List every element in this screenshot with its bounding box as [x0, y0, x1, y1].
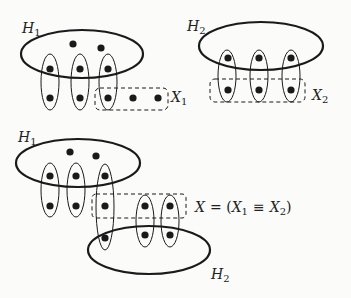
- vertex: [76, 65, 83, 72]
- vertex: [101, 202, 108, 209]
- panel-top-left: H1 X1: [21, 20, 187, 110]
- vertex: [141, 202, 148, 209]
- label-x-equivalence: X= (X1≡X2): [194, 199, 292, 217]
- vertex: [46, 94, 53, 101]
- vertex: [72, 172, 79, 179]
- label-h1: H1: [21, 20, 41, 38]
- label-x2: X2: [311, 87, 328, 105]
- vertex: [104, 65, 111, 72]
- vertex: [154, 94, 161, 101]
- vertex: [129, 94, 136, 101]
- label-h2: H2: [186, 18, 206, 36]
- vertex: [97, 44, 104, 51]
- label-h2: H2: [210, 266, 230, 284]
- vertex: [46, 65, 53, 72]
- vertex: [72, 202, 79, 209]
- vertex: [224, 54, 231, 61]
- vertex: [141, 231, 148, 238]
- diagram-svg: H1 X1 H2 X2: [0, 0, 351, 298]
- vertex: [101, 172, 108, 179]
- vertex: [76, 94, 83, 101]
- vertex: [166, 231, 173, 238]
- vertex: [255, 54, 262, 61]
- hyperedge-h2-ellipse: [199, 22, 323, 70]
- vertex: [46, 202, 53, 209]
- label-x1: X1: [170, 89, 187, 107]
- vertex: [166, 202, 173, 209]
- vertex: [92, 152, 99, 159]
- vertex: [66, 148, 73, 155]
- vertex: [69, 40, 76, 47]
- hypergraph-diagram: H1 X1 H2 X2: [0, 0, 351, 298]
- vertex: [255, 86, 262, 93]
- panel-bottom: H1 H2 X= (X1≡X2): [16, 129, 292, 284]
- vertex: [101, 234, 108, 241]
- vertex: [287, 86, 294, 93]
- vertex: [46, 172, 53, 179]
- vertex: [104, 94, 111, 101]
- label-h1: H1: [17, 129, 37, 147]
- panel-top-right: H2 X2: [186, 18, 328, 105]
- vertex: [224, 86, 231, 93]
- vertex: [287, 54, 294, 61]
